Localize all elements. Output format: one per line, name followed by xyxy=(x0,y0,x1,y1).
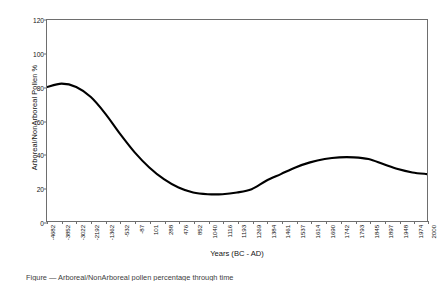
x-tick-mark xyxy=(194,221,195,224)
pollen-curve xyxy=(47,20,427,221)
x-tick-mark xyxy=(106,221,107,224)
x-tick-label: 1040 xyxy=(211,225,218,238)
x-tick-label: 1461 xyxy=(284,225,291,238)
x-tick-mark xyxy=(370,221,371,224)
x-tick-mark xyxy=(47,221,48,224)
x-tick-mark xyxy=(209,221,210,224)
x-tick-label: 1948 xyxy=(402,225,409,238)
x-tick-label: 1742 xyxy=(343,225,350,238)
x-tick-label: -532 xyxy=(123,225,130,237)
x-tick-label: 1269 xyxy=(255,225,262,238)
x-axis-title: Years (BC - AD) xyxy=(46,249,428,258)
x-tick-mark xyxy=(341,221,342,224)
x-tick-mark xyxy=(311,221,312,224)
x-tick-label: 1614 xyxy=(314,225,321,238)
x-tick-label: 852 xyxy=(196,225,203,235)
x-tick-label: 1193 xyxy=(240,225,247,238)
x-tick-label: 1897 xyxy=(387,225,394,238)
x-tick-label: -1362 xyxy=(108,225,115,240)
x-tick-mark xyxy=(165,221,166,224)
x-tick-mark xyxy=(91,221,92,224)
x-tick-label: 1793 xyxy=(358,225,365,238)
x-tick-label: 1116 xyxy=(226,225,233,237)
x-tick-mark xyxy=(267,221,268,224)
x-tick-mark xyxy=(297,221,298,224)
x-tick-label: -3852 xyxy=(64,225,71,240)
y-tick-label: 40 xyxy=(37,152,47,159)
x-tick-mark xyxy=(428,221,429,224)
figure: Arboreal/NonArboreal Pollen % 0204060801… xyxy=(0,0,442,281)
x-tick-label: 1690 xyxy=(329,225,336,238)
x-tick-mark xyxy=(62,221,63,224)
y-tick-label: 100 xyxy=(33,50,47,57)
x-tick-mark xyxy=(282,221,283,224)
x-tick-label: 2000 xyxy=(430,225,437,238)
x-tick-mark xyxy=(400,221,401,224)
x-tick-mark xyxy=(385,221,386,224)
x-tick-label: 1845 xyxy=(373,225,380,238)
x-tick-label: 476 xyxy=(182,225,189,235)
x-tick-mark xyxy=(414,221,415,224)
y-tick-label: 0 xyxy=(40,220,47,227)
x-tick-mark xyxy=(179,221,180,224)
x-tick-mark xyxy=(253,221,254,224)
y-tick-label: 20 xyxy=(37,186,47,193)
x-tick-label: 1974 xyxy=(417,225,424,238)
x-tick-label: 1537 xyxy=(299,225,306,238)
figure-caption: Figure — Arboreal/NonArboreal pollen per… xyxy=(26,273,426,281)
x-tick-mark xyxy=(356,221,357,224)
y-tick-label: 60 xyxy=(37,118,47,125)
x-tick-label: 1384 xyxy=(270,225,277,238)
x-tick-label: 288 xyxy=(167,225,174,235)
x-tick-mark xyxy=(135,221,136,224)
x-tick-label: -4682 xyxy=(49,225,56,240)
plot-area: 020406080100120-4682-3852-3022-2192-1362… xyxy=(46,19,428,222)
x-tick-mark xyxy=(223,221,224,224)
pollen-curve-path xyxy=(47,84,427,195)
x-tick-mark xyxy=(120,221,121,224)
x-tick-mark xyxy=(326,221,327,224)
x-tick-mark xyxy=(76,221,77,224)
x-tick-label: -87 xyxy=(138,225,145,234)
x-tick-mark xyxy=(150,221,151,224)
x-tick-label: -3022 xyxy=(79,225,86,240)
y-tick-label: 80 xyxy=(37,84,47,91)
x-tick-mark xyxy=(238,221,239,224)
y-tick-label: 120 xyxy=(33,17,47,24)
x-tick-label: 101 xyxy=(152,225,159,235)
x-tick-label: -2192 xyxy=(93,225,100,240)
